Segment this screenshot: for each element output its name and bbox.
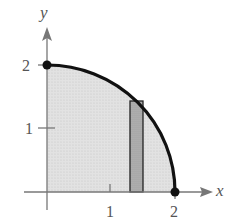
x-axis-label: x (215, 181, 224, 200)
y-axis-label: y (38, 3, 48, 22)
endpoint-0-2 (43, 61, 52, 70)
x-tick-label-1: 1 (106, 203, 114, 220)
representative-rectangle (130, 101, 143, 192)
x-tick-label-2: 2 (170, 203, 178, 220)
quarter-circle-diagram: x y 1 2 1 2 (0, 0, 230, 223)
shaded-region (47, 65, 175, 192)
y-tick-label-2: 2 (22, 57, 30, 74)
endpoint-2-0 (171, 188, 180, 197)
y-tick-label-1: 1 (25, 120, 33, 137)
